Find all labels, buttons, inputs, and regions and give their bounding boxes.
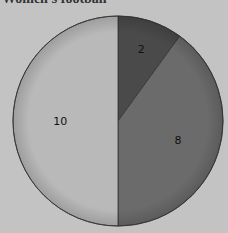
slice-label: 8: [174, 134, 181, 147]
slice-label: 2: [138, 43, 145, 56]
pie-chart: 2810: [0, 0, 228, 233]
slice-label: 10: [53, 115, 67, 128]
